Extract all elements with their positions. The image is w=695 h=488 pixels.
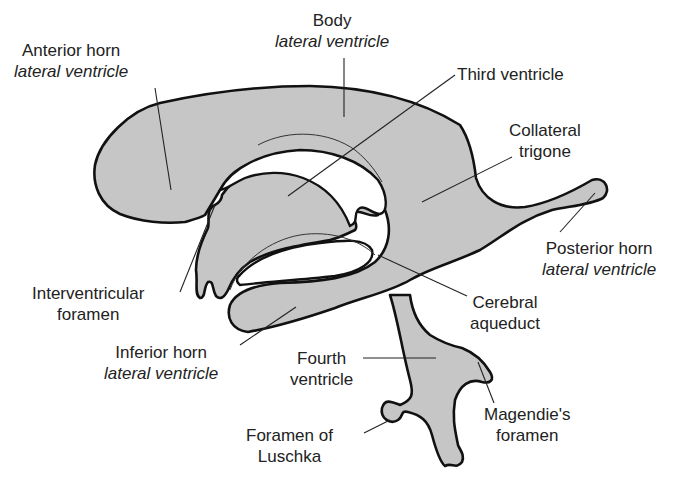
label-text: Fourth <box>290 348 353 369</box>
label-text: Collateral <box>509 120 581 141</box>
label-text: foramen <box>32 304 144 325</box>
label-text: foramen <box>484 425 570 446</box>
label-anterior-horn: Anterior horn lateral ventricle <box>14 40 128 82</box>
label-text-italic: lateral ventricle <box>14 61 128 82</box>
label-inferior-horn: Inferior horn lateral ventricle <box>104 342 218 384</box>
label-third-ventricle: Third ventricle <box>457 64 564 85</box>
label-magendie-foramen: Magendie's foramen <box>484 404 570 446</box>
label-text: Luschka <box>246 446 333 467</box>
label-posterior-horn: Posterior horn lateral ventricle <box>542 238 656 280</box>
label-text: Body <box>275 10 389 31</box>
label-text: Interventricular <box>32 283 144 304</box>
label-fourth-ventricle: Fourth ventricle <box>290 348 353 390</box>
label-text: Posterior horn <box>542 238 656 259</box>
label-text-italic: lateral ventricle <box>275 31 389 52</box>
label-text: Inferior horn <box>104 342 218 363</box>
label-text-italic: lateral ventricle <box>104 363 218 384</box>
label-luschka-foramen: Foramen of Luschka <box>246 425 333 467</box>
label-text: aqueduct <box>470 313 540 334</box>
label-collateral-trigone: Collateral trigone <box>509 120 581 162</box>
label-text: Anterior horn <box>14 40 128 61</box>
label-text: Third ventricle <box>457 64 564 85</box>
label-body: Body lateral ventricle <box>275 10 389 52</box>
label-text: Foramen of <box>246 425 333 446</box>
label-text: Magendie's <box>484 404 570 425</box>
leader-luschka <box>364 420 390 433</box>
label-interventricular-foramen: Interventricular foramen <box>32 283 144 325</box>
label-text-italic: lateral ventricle <box>542 259 656 280</box>
label-text: trigone <box>509 141 581 162</box>
label-cerebral-aqueduct: Cerebral aqueduct <box>470 292 540 334</box>
label-text: Cerebral <box>470 292 540 313</box>
label-text: ventricle <box>290 369 353 390</box>
